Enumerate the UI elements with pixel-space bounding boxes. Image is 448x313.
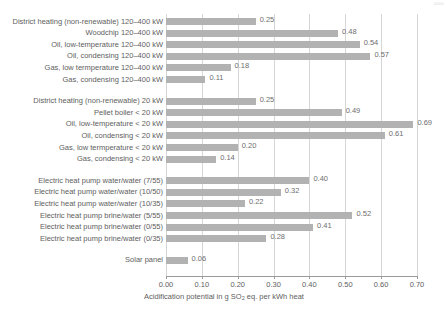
bar[interactable] (166, 121, 413, 128)
category-label: Oil, low-temperature 120–400 kW (1, 41, 163, 48)
bar[interactable] (166, 132, 385, 139)
category-labels: District heating (non-renewable) 120–400… (0, 14, 163, 276)
category-label: Gas, condensing 120–400 kW (1, 76, 163, 83)
bar-value-label: 0.20 (242, 141, 257, 150)
tick-label-0.30: 0.30 (266, 280, 281, 289)
tick-mark (381, 276, 382, 279)
category-label: Electric heat pump water/water (10/35) (1, 200, 163, 207)
bar[interactable] (166, 30, 338, 37)
bar-value-label: 0.40 (313, 174, 328, 183)
category-label: Electric heat pump brine/water (0/35) (1, 235, 163, 242)
bar-value-label: 0.06 (192, 254, 207, 263)
bar-value-label: 0.52 (356, 209, 371, 218)
bar-row[interactable]: 0.41 (166, 224, 417, 231)
bar[interactable] (166, 18, 256, 25)
bar[interactable] (166, 53, 370, 60)
bar-value-label: 0.25 (260, 15, 275, 24)
category-label: Woodchip 120–400 kW (1, 29, 163, 36)
bar-row[interactable]: 0.40 (166, 177, 417, 184)
bar[interactable] (166, 76, 205, 83)
tick-label-0.20: 0.20 (230, 280, 245, 289)
category-label: District heating (non-renewable) 20 kW (1, 97, 163, 104)
bar-row[interactable]: 0.18 (166, 64, 417, 71)
acidification-potential-bar-chart: 0000 0.250.480.540.570.180.110.250.490.6… (0, 0, 448, 313)
category-label: Gas, low termperature 120–400 kW (1, 64, 163, 71)
bar-value-label: 0.22 (249, 197, 264, 206)
bar-value-label: 0.49 (346, 106, 361, 115)
bar-value-label: 0.61 (389, 129, 404, 138)
tick-mark (202, 276, 203, 279)
tick-mark (309, 276, 310, 279)
bar-value-label: 0.25 (260, 95, 275, 104)
x-axis-label-suffix: eq. per kWh heat (245, 292, 304, 301)
bar[interactable] (166, 212, 352, 219)
tick-mark (238, 276, 239, 279)
bar-row[interactable]: 0.20 (166, 144, 417, 151)
bar-row[interactable]: 0.48 (166, 30, 417, 37)
bar-value-label: 0.54 (364, 38, 379, 47)
tick-mark (345, 276, 346, 279)
bar-value-label: 0.11 (209, 73, 223, 82)
category-label: Electric heat pump brine/water (0/55) (1, 223, 163, 230)
bars-layer: 0.250.480.540.570.180.110.250.490.690.61… (166, 14, 417, 276)
bar-value-label: 0.18 (235, 61, 250, 70)
bar-value-label: 0.28 (270, 232, 285, 241)
bar[interactable] (166, 144, 238, 151)
bar[interactable] (166, 109, 342, 116)
bar-row[interactable]: 0.25 (166, 98, 417, 105)
bar-value-label: 0.14 (220, 153, 235, 162)
bar[interactable] (166, 189, 281, 196)
x-axis-label: Acidification potential in g SO2 eq. per… (0, 292, 448, 301)
bar[interactable] (166, 257, 188, 264)
bar-row[interactable]: 0.22 (166, 200, 417, 207)
category-label: Oil, condensing 120–400 kW (1, 52, 163, 59)
bar-value-label: 0.41 (317, 221, 332, 230)
category-label: Electric heat pump water/water (10/50) (1, 188, 163, 195)
bar-row[interactable]: 0.49 (166, 109, 417, 116)
category-label: Oil, low-temperature < 20 kW (1, 120, 163, 127)
bar[interactable] (166, 224, 313, 231)
bar[interactable] (166, 156, 216, 163)
bar-value-label: 0.69 (417, 118, 432, 127)
category-label: Pellet boiler < 20 kW (1, 109, 163, 116)
tick-label-0.00: 0.00 (159, 280, 174, 289)
tick-mark (417, 276, 418, 279)
category-label: Electric heat pump water/water (7/55) (1, 177, 163, 184)
category-label: Oil, condensing < 20 kW (1, 132, 163, 139)
bar-value-label: 0.57 (374, 50, 389, 59)
tick-label-0.60: 0.60 (374, 280, 389, 289)
bar[interactable] (166, 177, 309, 184)
tick-mark (274, 276, 275, 279)
bar-row[interactable]: 0.52 (166, 212, 417, 219)
x-axis-label-prefix: Acidification potential in g SO (144, 292, 242, 301)
bar[interactable] (166, 64, 231, 71)
bar-row[interactable]: 0.28 (166, 235, 417, 242)
bar-row[interactable]: 0.32 (166, 189, 417, 196)
bar-row[interactable]: 0.25 (166, 18, 417, 25)
category-label: District heating (non-renewable) 120–400… (1, 18, 163, 25)
bar-value-label: 0.32 (285, 186, 300, 195)
category-label: Gas, low termperature < 20 kW (1, 144, 163, 151)
bar-value-label: 0.48 (342, 27, 357, 36)
corner-watermark: 0000 (434, 1, 444, 6)
bar-row[interactable]: 0.14 (166, 156, 417, 163)
category-label: Gas, condensing < 20 kW (1, 155, 163, 162)
bar-row[interactable]: 0.61 (166, 132, 417, 139)
bar-row[interactable]: 0.11 (166, 76, 417, 83)
gridline-0.70 (417, 14, 418, 276)
bar[interactable] (166, 200, 245, 207)
bar-row[interactable]: 0.06 (166, 257, 417, 264)
bar-row[interactable]: 0.54 (166, 41, 417, 48)
tick-mark (166, 276, 167, 279)
category-label: Electric heat pump brine/water (5/55) (1, 212, 163, 219)
bar[interactable] (166, 41, 360, 48)
category-label: Solar panel (1, 256, 163, 263)
tick-label-0.40: 0.40 (302, 280, 317, 289)
bar-row[interactable]: 0.57 (166, 53, 417, 60)
bar[interactable] (166, 98, 256, 105)
tick-label-0.10: 0.10 (195, 280, 210, 289)
bar[interactable] (166, 235, 266, 242)
tick-label-0.50: 0.50 (338, 280, 353, 289)
tick-label-0.70: 0.70 (410, 280, 425, 289)
bar-row[interactable]: 0.69 (166, 121, 417, 128)
